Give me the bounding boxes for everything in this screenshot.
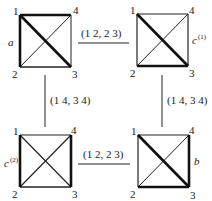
vertex-label-4: 4: [71, 124, 77, 136]
vertex-label-1: 1: [131, 125, 137, 137]
vertex-label-1: 1: [13, 5, 19, 17]
vertex-label-3: 3: [190, 189, 196, 201]
edge-c1-b: (1 4, 3 4): [162, 75, 208, 127]
vertex-label-2: 2: [12, 188, 18, 200]
k4-node-a: 1 4 2 3 a: [8, 4, 79, 80]
vertex-label-4: 4: [73, 4, 79, 16]
vertex-label-3: 3: [72, 188, 78, 200]
edge-label-c2-b: (1 2, 2 3): [83, 148, 124, 161]
vertex-label-4: 4: [189, 124, 195, 136]
edge-label-a-c2: (1 4, 3 4): [50, 94, 91, 107]
vertex-label-2: 2: [130, 67, 136, 79]
edge-a-c2: (1 4, 3 4): [45, 75, 91, 127]
vertex-label-1: 1: [13, 125, 19, 137]
edge-label-c1-b: (1 4, 3 4): [167, 94, 208, 107]
node-label-c1-superscript: (1): [198, 33, 207, 41]
node-label-a: a: [8, 36, 14, 48]
edge-label-a-c1: (1 2, 2 3): [81, 27, 122, 40]
node-label-c1: c: [192, 34, 197, 46]
k4-node-c2: 1 4 2 3 c (2): [4, 124, 78, 200]
vertex-label-2: 2: [130, 188, 136, 200]
edge-c2-b: (1 2, 2 3): [78, 148, 130, 164]
vertex-label-2: 2: [12, 68, 18, 80]
node-label-b: b: [194, 155, 200, 167]
vertex-label-1: 1: [130, 4, 136, 16]
k4-node-c1: 1 4 2 3 c (1): [130, 4, 207, 79]
diagram-canvas: 1 4 2 3 a 1 4 2 3 c (1) 1 4 2 3 c (2): [0, 0, 212, 201]
vertex-label-3: 3: [189, 67, 195, 79]
k4-node-b: 1 4 2 3 b: [130, 124, 200, 201]
edge-a-c1: (1 2, 2 3): [78, 27, 129, 43]
node-label-c2: c: [4, 157, 9, 169]
vertex-label-3: 3: [72, 68, 78, 80]
vertex-label-4: 4: [189, 4, 195, 16]
node-label-c2-superscript: (2): [10, 156, 19, 164]
